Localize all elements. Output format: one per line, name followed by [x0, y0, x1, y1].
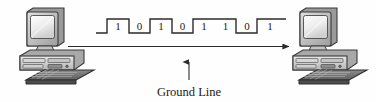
right-case-drive-bay-a	[296, 59, 318, 63]
bit-digit-1: 0	[137, 20, 143, 32]
left-monitor	[27, 8, 64, 51]
bit-digit-2: 1	[158, 20, 164, 32]
bit-digit-labels: 1 0 1 0 1 1 0 1	[115, 20, 273, 32]
right-keyboard-top	[299, 70, 367, 80]
left-case-power-button	[66, 65, 69, 68]
bit-digit-6: 0	[244, 20, 250, 32]
right-desktop-case	[293, 50, 357, 70]
right-computer	[293, 8, 367, 84]
right-case-power-button	[339, 65, 342, 68]
bit-stream-waveform	[96, 19, 286, 33]
ground-line-callout: Ground Line	[157, 62, 222, 99]
right-keyboard-front-edge	[299, 80, 349, 84]
left-keyboard-front-edge	[26, 80, 76, 84]
left-keyboard	[26, 69, 94, 85]
bit-digit-7: 1	[267, 20, 273, 32]
right-case-panel	[321, 65, 335, 69]
right-keyboard	[299, 69, 367, 85]
right-monitor	[300, 8, 337, 51]
ground-line-label: Ground Line	[157, 85, 222, 99]
left-case-panel	[48, 65, 62, 69]
waveform-path	[96, 19, 286, 33]
left-keyboard-top	[26, 70, 94, 80]
bit-digit-0: 1	[115, 20, 121, 32]
bit-digit-4: 1	[201, 20, 207, 32]
right-case-drive-bay-b	[321, 59, 343, 63]
left-case-floppy-slot	[23, 65, 43, 69]
left-desktop-case	[20, 50, 84, 70]
bit-digit-5: 1	[223, 20, 229, 32]
left-case-drive-bay-a	[23, 59, 45, 63]
diagram-canvas: 1 0 1 0 1 1 0 1 Ground Line	[0, 0, 376, 102]
bit-digit-3: 0	[180, 20, 186, 32]
right-case-floppy-slot	[296, 65, 316, 69]
ground-line-diagram-svg: 1 0 1 0 1 1 0 1 Ground Line	[0, 0, 376, 102]
left-case-drive-bay-b	[48, 59, 70, 63]
